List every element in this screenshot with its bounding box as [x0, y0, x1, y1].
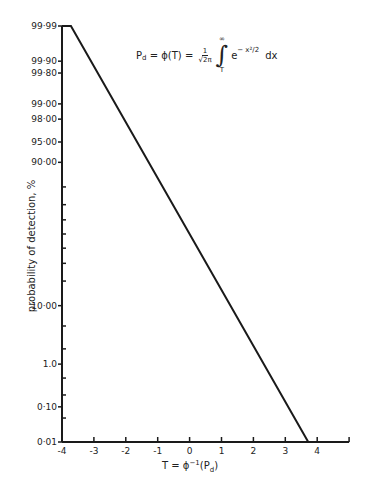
- x-axis-label-pre: T = ϕ: [161, 460, 190, 471]
- y-tick-label: 0·01: [37, 437, 57, 447]
- x-tick-label: 4: [314, 446, 320, 456]
- formula-frac-den: √2π: [198, 56, 211, 64]
- y-tick-label: 95·00: [31, 137, 57, 147]
- y-tick-label: 90·00: [31, 157, 57, 167]
- series-line: [62, 26, 308, 442]
- x-tick-label: -2: [121, 446, 130, 456]
- formula-integrand-exponent: − x²/2: [237, 46, 259, 54]
- y-tick-label: 1.0: [43, 359, 58, 369]
- x-tick-label: -3: [89, 446, 98, 456]
- x-axis-label-post: ): [214, 460, 218, 471]
- y-tick-label: 99·99: [31, 21, 57, 31]
- x-tick-label: 1: [219, 446, 225, 456]
- y-tick-label: 0·10: [37, 402, 57, 412]
- x-tick-label: 2: [251, 446, 257, 456]
- data-series-line: [62, 26, 308, 442]
- x-axis-label-mid: (P: [200, 460, 210, 471]
- y-tick-label: 99·90: [31, 56, 57, 66]
- formula-annotation: Pd = ϕ(T) = 1 √2π ∞ ∫ T e− x²/2 dx: [136, 36, 277, 74]
- y-axis-label: probability of detection, %: [26, 180, 37, 312]
- x-axis: -4-3-2-101234: [58, 437, 350, 456]
- integral-icon: ∫: [216, 43, 229, 67]
- integral-lower-limit: T: [220, 67, 224, 74]
- x-tick-label: 0: [187, 446, 193, 456]
- y-tick-label: 99·80: [31, 68, 57, 78]
- x-axis-label-sup: −1: [189, 459, 199, 467]
- x-tick-label: -4: [58, 446, 67, 456]
- formula-frac-num: 1: [202, 47, 208, 56]
- formula-dx: dx: [265, 50, 277, 61]
- integral-sign: ∞ ∫ T: [216, 36, 229, 74]
- x-tick-label: -1: [153, 446, 162, 456]
- x-axis-label: T = ϕ−1(Pd): [161, 459, 218, 474]
- formula-eq: = ϕ(T) =: [146, 50, 196, 61]
- x-tick-label: 3: [282, 446, 288, 456]
- y-tick-label: 99·00: [31, 99, 57, 109]
- formula-lhs-sub: d: [142, 54, 146, 62]
- formula-fraction: 1 √2π: [198, 47, 211, 64]
- y-tick-label: 98·00: [31, 114, 57, 124]
